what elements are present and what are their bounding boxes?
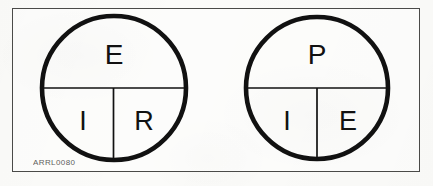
power-law-top-label: P: [308, 39, 327, 70]
ohms-law-bottom-right-label: R: [134, 106, 154, 136]
ohms-law-top-label: E: [105, 39, 124, 70]
figure-caption-id: ARRL0080: [33, 158, 75, 167]
power-law-bottom-left-label: I: [283, 106, 291, 136]
power-law-bottom-right-label: E: [339, 106, 357, 136]
figure-page: E I R P I E ARRL0080: [0, 0, 433, 186]
ohms-law-bottom-left-label: I: [79, 106, 87, 136]
power-law-circle: P I E: [246, 17, 388, 159]
ohms-law-circle: E I R: [42, 16, 186, 160]
